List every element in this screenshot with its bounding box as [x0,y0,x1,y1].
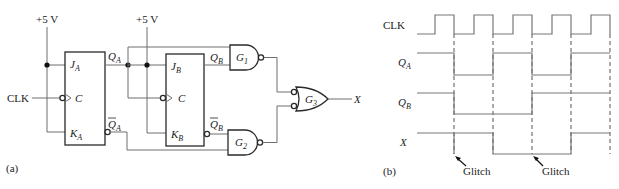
clock-bubble-b [160,95,165,100]
vcc-label-a: +5 V [36,13,58,25]
clock-bubble-a [60,95,65,100]
timing-diagram: CLK QA QB X Glitch Glitch (b) [383,15,610,178]
junction-dot [44,62,49,67]
ff-a-q-label: QA [108,50,121,65]
circuit-and-timing-diagram: +5 V CLK JA C KA QA QA +5 V [0,0,619,189]
signal-label-x: X [399,136,408,148]
panel-label-a: (a) [6,162,19,175]
circuit-diagram: +5 V CLK JA C KA QA QA +5 V [6,13,362,175]
signal-label-qb: QB [398,96,411,111]
waveform-qb [417,93,610,114]
ff-b-c-label: C [178,92,186,104]
ff-a-c-label: C [75,92,83,104]
svg-text:Glitch: Glitch [542,165,570,177]
qbar-bubble-b [204,131,209,136]
waveform-qa [417,53,610,75]
vcc-label-b: +5 V [136,13,158,25]
ff-b-qbar-label: QB [210,118,223,133]
glitch-annotation-1: Glitch [455,156,491,177]
output-x-label: X [353,93,362,105]
ff-b-q-label: QB [210,51,223,66]
junction-dot [144,62,149,67]
waveform-clk [417,15,610,34]
signal-label-qa: QA [398,56,411,71]
panel-label-b: (b) [383,165,396,178]
qbar-bubble-a [105,129,110,134]
svg-text:Glitch: Glitch [463,165,491,177]
signal-label-clk: CLK [383,19,405,31]
glitch-annotation-2: Glitch [533,156,570,177]
waveform-x [417,133,610,154]
clk-input-label: CLK [7,92,29,104]
